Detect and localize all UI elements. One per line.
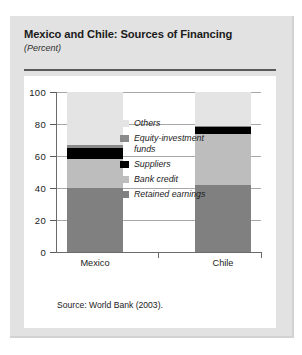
- legend-swatch-others-icon: [120, 120, 129, 127]
- legend-item-suppliers[interactable]: Suppliers: [120, 159, 230, 170]
- ytick-label-60: 60: [35, 151, 46, 162]
- title-divider: [24, 69, 276, 71]
- xtick-label-chile: Chile: [195, 258, 251, 268]
- figure-card: Mexico and Chile: Sources of Financing (…: [10, 16, 294, 338]
- xtick-mark-center: [158, 253, 159, 258]
- page-top-margin: [0, 0, 302, 14]
- x-axis-line: [56, 252, 262, 253]
- ytick-mark-40: [50, 188, 56, 189]
- figure-page: Mexico and Chile: Sources of Financing (…: [0, 0, 302, 355]
- legend-item-bank-credit[interactable]: Bank credit: [120, 174, 230, 185]
- legend-label-bank-credit: Bank credit: [134, 174, 178, 185]
- ytick-mark-80: [50, 124, 56, 125]
- ytick-mark-0: [50, 252, 56, 253]
- chart-legend: Others Equity-investment funds Suppliers…: [120, 118, 230, 204]
- legend-swatch-bank-credit-icon: [120, 176, 129, 183]
- figure-heading: Mexico and Chile: Sources of Financing (…: [24, 28, 274, 54]
- source-note: Source: World Bank (2003).: [57, 300, 163, 310]
- ytick-label-100: 100: [29, 87, 46, 98]
- legend-item-retained-earnings[interactable]: Retained earnings: [120, 189, 230, 200]
- chart-panel: 100 80 60 40 20 0: [24, 76, 276, 328]
- legend-item-others[interactable]: Others: [120, 118, 230, 129]
- y-axis-line: [56, 92, 57, 252]
- segment-mexico-retained-earnings[interactable]: [67, 188, 123, 252]
- legend-label-retained-earnings: Retained earnings: [134, 189, 205, 200]
- segment-mexico-bank-credit[interactable]: [67, 159, 123, 188]
- ytick-label-40: 40: [35, 183, 46, 194]
- ytick-label-20: 20: [35, 215, 46, 226]
- legend-item-equity-investment-funds[interactable]: Equity-investment funds: [120, 133, 230, 154]
- segment-mexico-others[interactable]: [67, 92, 123, 145]
- ytick-label-80: 80: [35, 119, 46, 130]
- legend-swatch-equity-investment-funds-icon: [120, 135, 129, 142]
- ytick-mark-60: [50, 156, 56, 157]
- legend-label-others: Others: [134, 118, 160, 129]
- legend-swatch-suppliers-icon: [120, 161, 129, 168]
- segment-mexico-equity-investment-funds[interactable]: [67, 145, 123, 148]
- ytick-mark-100: [50, 92, 56, 93]
- ytick-label-0: 0: [40, 247, 46, 258]
- legend-label-suppliers: Suppliers: [134, 159, 171, 170]
- segment-mexico-suppliers[interactable]: [67, 148, 123, 159]
- figure-title: Mexico and Chile: Sources of Financing: [24, 28, 274, 41]
- legend-swatch-retained-earnings-icon: [120, 191, 129, 198]
- xtick-label-mexico: Mexico: [67, 258, 123, 268]
- figure-subtitle: (Percent): [24, 43, 274, 54]
- ytick-mark-20: [50, 220, 56, 221]
- legend-label-equity-investment-funds: Equity-investment funds: [134, 133, 204, 154]
- xtick-mark-right: [261, 253, 262, 258]
